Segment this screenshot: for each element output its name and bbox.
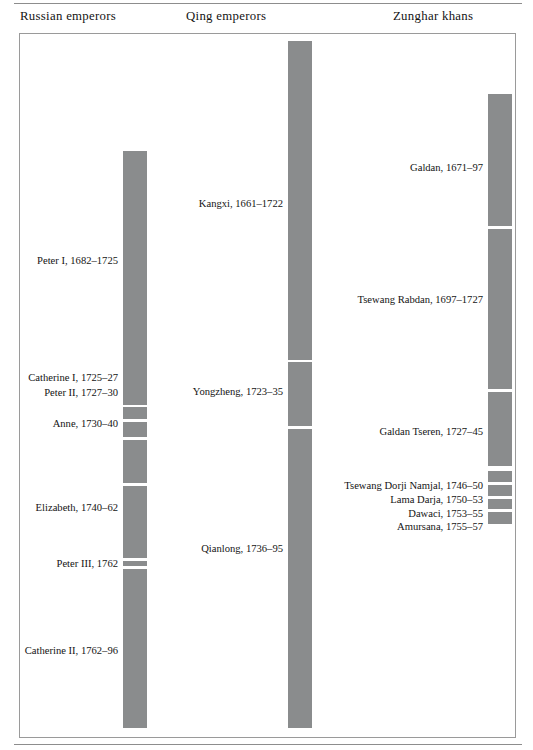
reign-bar (123, 569, 147, 728)
column-header-zunghar: Zunghar khans (393, 9, 473, 24)
reign-label: Galdan, 1671–97 (410, 162, 483, 174)
reign-bar (488, 499, 512, 509)
reign-bar (123, 440, 147, 483)
bottom-rule (14, 744, 522, 745)
column-header-russian: Russian emperors (20, 9, 116, 24)
reign-label: Kangxi, 1661–1722 (199, 198, 283, 210)
reign-bar (123, 486, 147, 558)
reign-bar (488, 94, 512, 226)
column-header-qing: Qing emperors (186, 9, 266, 24)
reign-bar (123, 407, 147, 419)
reign-label: Catherine I, 1725–27 (28, 372, 118, 384)
reign-label: Anne, 1730–40 (53, 418, 118, 430)
chart-frame: Peter I, 1682–1725Catherine I, 1725–27Pe… (19, 33, 516, 738)
reign-bar (123, 422, 147, 437)
reign-label: Tsewang Rabdan, 1697–1727 (358, 294, 483, 306)
reign-bar (488, 512, 512, 524)
reign-label: Dawaci, 1753–55 (408, 508, 483, 520)
reign-label: Amursana, 1755–57 (397, 521, 483, 533)
reign-bar (488, 229, 512, 389)
reign-label: Yongzheng, 1723–35 (193, 386, 283, 398)
top-rule (14, 3, 522, 4)
reign-bar (488, 471, 512, 482)
reign-label: Peter I, 1682–1725 (37, 255, 118, 267)
reign-label: Galdan Tseren, 1727–45 (379, 426, 483, 438)
reign-bar (123, 561, 147, 566)
reign-bar (488, 392, 512, 466)
reign-label: Tsewang Dorji Namjal, 1746–50 (344, 480, 483, 492)
reign-label: Qianlong, 1736–95 (201, 543, 283, 555)
timeline-plot-area: Peter I, 1682–1725Catherine I, 1725–27Pe… (20, 34, 515, 737)
timeline-figure: Russian emperors Qing emperors Zunghar k… (0, 0, 533, 750)
reign-label: Catherine II, 1762–96 (25, 645, 118, 657)
reign-bar (488, 485, 512, 496)
reign-label: Lama Darja, 1750–53 (390, 494, 483, 506)
column-headers: Russian emperors Qing emperors Zunghar k… (0, 9, 533, 31)
reign-bar (123, 151, 147, 405)
reign-label: Peter III, 1762 (57, 558, 118, 570)
reign-bar (288, 41, 312, 360)
reign-label: Peter II, 1727–30 (44, 387, 118, 399)
reign-bar (288, 429, 312, 728)
reign-bar (288, 362, 312, 426)
reign-label: Elizabeth, 1740–62 (36, 502, 118, 514)
